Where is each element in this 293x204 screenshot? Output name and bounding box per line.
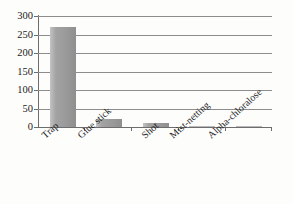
bar-chart-figure: 300 250 200 150 100 50 0 Trap Glue sti [0, 0, 293, 204]
x-tick-mark-2 [131, 127, 132, 131]
y-tick-label-0: 0 [3, 122, 33, 133]
y-tick-label-50: 50 [3, 103, 33, 114]
gridline-300 [38, 16, 272, 17]
bar-trap [50, 27, 76, 127]
y-axis-labels: 300 250 200 150 100 50 0 [0, 0, 33, 204]
y-tick-label-100: 100 [3, 85, 33, 96]
y-tick-label-200: 200 [3, 48, 33, 59]
y-tick-label-150: 150 [3, 66, 33, 77]
x-tick-mark-5 [271, 127, 272, 131]
bar-alpha-chloralose [236, 126, 262, 127]
y-tick-label-300: 300 [3, 11, 33, 22]
y-tick-label-250: 250 [3, 29, 33, 40]
